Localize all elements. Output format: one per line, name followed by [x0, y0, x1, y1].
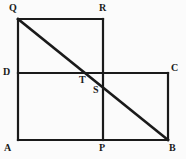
geometry-figure: Q R D C T S A P B	[0, 0, 186, 159]
segments-group	[18, 19, 168, 140]
vertex-label-S: S	[93, 85, 99, 95]
vertex-label-D: D	[3, 67, 10, 77]
vertex-label-B: B	[169, 143, 176, 153]
segment-QB-diagonal	[18, 19, 168, 140]
vertex-label-A: A	[4, 143, 11, 153]
vertex-label-T: T	[79, 75, 86, 85]
vertex-label-C: C	[171, 63, 178, 73]
vertex-label-P: P	[99, 143, 105, 153]
vertex-label-R: R	[99, 3, 106, 13]
geometry-diagram-svg	[0, 0, 186, 159]
vertex-label-Q: Q	[9, 3, 17, 13]
